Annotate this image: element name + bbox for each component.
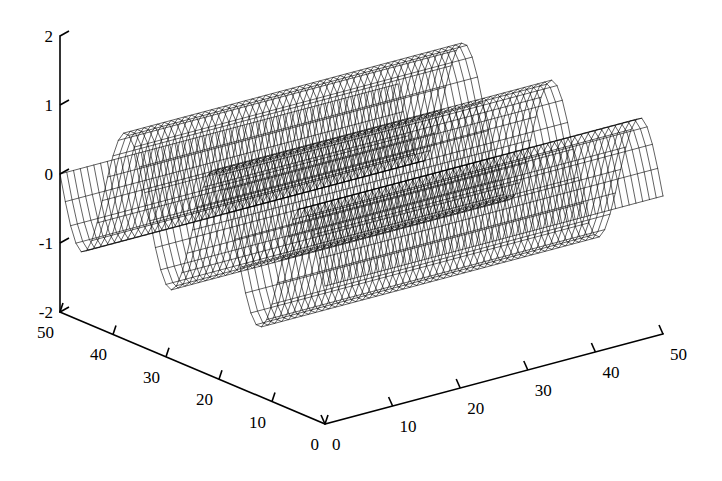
x-tick-10 (272, 393, 275, 402)
figure-canvas: -2-10120102030405001020304050 (0, 0, 722, 481)
z-tick-0 (60, 169, 69, 174)
z-tick--1 (60, 238, 69, 243)
z-tick-label--1: -1 (39, 235, 53, 252)
y-tick-label-40: 40 (602, 364, 619, 381)
x-tick-20 (219, 370, 222, 379)
x-tick-label-20: 20 (196, 391, 213, 408)
z-tick-label-0: 0 (45, 166, 54, 183)
y-tick-10 (389, 397, 393, 406)
x-tick-30 (166, 348, 169, 357)
y-tick-label-30: 30 (535, 382, 552, 399)
z-tick-label-2: 2 (45, 28, 54, 45)
mesh-surface (60, 43, 663, 327)
z-tick-1 (60, 100, 69, 105)
y-tick-50 (659, 325, 663, 334)
z-tick-label--2: -2 (39, 304, 53, 321)
x-tick-label-40: 40 (90, 346, 107, 363)
x-tick-label-30: 30 (143, 369, 160, 386)
x-tick-40 (113, 325, 116, 334)
plot-svg (0, 0, 722, 481)
y-tick-label-20: 20 (467, 400, 484, 417)
z-tick-2 (60, 31, 69, 36)
y-tick-20 (456, 379, 460, 388)
y-tick-label-10: 10 (400, 418, 417, 435)
x-tick-label-0: 0 (311, 436, 320, 453)
y-tick-30 (524, 361, 528, 370)
x-axis-line (60, 312, 325, 424)
y-tick-label-50: 50 (670, 346, 687, 363)
y-tick-label-0: 0 (332, 436, 341, 453)
x-tick-label-50: 50 (37, 324, 54, 341)
x-tick-label-10: 10 (249, 414, 266, 431)
z-tick-label-1: 1 (45, 97, 54, 114)
y-tick-40 (591, 343, 595, 352)
